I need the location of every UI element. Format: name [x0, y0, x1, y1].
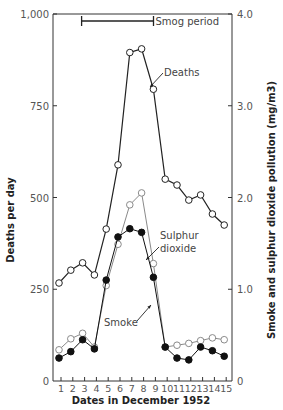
- right-tick-label: 3.0: [237, 101, 253, 112]
- data-point: [103, 277, 110, 284]
- sulphur-dioxide-label-line2: dioxide: [160, 243, 196, 254]
- data-point: [162, 344, 169, 351]
- data-point: [138, 229, 145, 236]
- x-tick-label: 15: [220, 383, 232, 394]
- left-tick-label: 0: [43, 376, 49, 387]
- data-point: [79, 260, 86, 267]
- x-tick-label: 8: [141, 383, 147, 394]
- x-tick-label: 1: [58, 383, 64, 394]
- data-point: [115, 162, 122, 169]
- data-point: [127, 225, 134, 232]
- x-tick-label: 9: [152, 383, 158, 394]
- data-point: [68, 335, 75, 342]
- data-point: [56, 355, 63, 362]
- smog-period-label: Smog period: [156, 16, 220, 27]
- x-tick-label: 4: [93, 383, 99, 394]
- data-point: [91, 272, 98, 279]
- x-tick-label: 3: [82, 383, 88, 394]
- data-point: [209, 211, 216, 218]
- data-point: [138, 190, 145, 197]
- series-sulphur-dioxide: [56, 190, 228, 353]
- data-point: [56, 280, 63, 287]
- left-axis-title: Deaths per day: [5, 177, 16, 263]
- chart: 02505007501,00001.02.03.04.0123456789101…: [0, 0, 283, 410]
- left-tick-label: 1,000: [20, 9, 49, 20]
- data-point: [221, 336, 228, 343]
- data-point: [127, 49, 134, 56]
- series-deaths: [56, 46, 228, 287]
- x-tick-label: 5: [105, 383, 111, 394]
- x-tick-label: 13: [197, 383, 209, 394]
- data-point: [138, 46, 145, 53]
- data-point: [209, 335, 216, 342]
- data-point: [115, 234, 122, 241]
- deaths-label: Deaths: [164, 67, 199, 78]
- data-point: [127, 202, 134, 209]
- right-tick-label: 2.0: [237, 193, 253, 204]
- annotations: Smog periodDeathsSulphurdioxideSmoke: [82, 16, 219, 328]
- data-point: [150, 86, 157, 93]
- data-point: [174, 355, 181, 362]
- left-tick-label: 250: [30, 284, 49, 295]
- data-point: [186, 357, 193, 364]
- left-tick-label: 500: [30, 193, 49, 204]
- data-point: [197, 344, 204, 351]
- x-tick-label: 12: [185, 383, 197, 394]
- x-tick-label: 6: [117, 383, 123, 394]
- right-tick-label: 0: [237, 376, 243, 387]
- data-point: [209, 347, 216, 354]
- x-tick-label: 11: [173, 383, 185, 394]
- data-point: [186, 340, 193, 347]
- data-point: [103, 226, 110, 233]
- data-point: [79, 330, 86, 337]
- data-point: [68, 267, 75, 274]
- x-tick-label: 2: [70, 383, 76, 394]
- data-point: [79, 336, 86, 343]
- data-point: [91, 346, 98, 353]
- data-point: [197, 337, 204, 344]
- left-tick-label: 750: [30, 101, 49, 112]
- sulphur-dioxide-label-line1: Sulphur: [160, 230, 199, 241]
- x-axis-title: Dates in December 1952: [72, 395, 211, 406]
- right-tick-label: 4.0: [237, 9, 253, 20]
- x-tick-label: 7: [129, 383, 135, 394]
- data-point: [56, 347, 63, 354]
- data-point: [197, 192, 204, 199]
- axes: 02505007501,00001.02.03.04.0123456789101…: [5, 9, 277, 406]
- smoke-label: Smoke: [104, 317, 138, 328]
- data-point: [221, 353, 228, 360]
- right-axis-title: Smoke and sulphur dioxide pollution (mg/…: [266, 81, 277, 339]
- series-line: [59, 49, 224, 283]
- right-tick-label: 1.0: [237, 284, 253, 295]
- data-point: [186, 197, 193, 204]
- x-tick-label: 14: [208, 383, 220, 394]
- data-point: [150, 274, 157, 281]
- data-point: [68, 348, 75, 355]
- data-point: [150, 260, 157, 267]
- data-point: [174, 342, 181, 349]
- x-tick-label: 10: [161, 383, 173, 394]
- data-point: [221, 222, 228, 229]
- data-point: [174, 182, 181, 189]
- data-point: [162, 176, 169, 183]
- series-line: [59, 193, 224, 350]
